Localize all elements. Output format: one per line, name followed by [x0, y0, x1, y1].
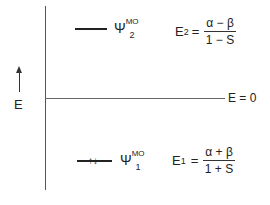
numerator: α + β [203, 145, 235, 161]
energy-subscript: 2 [184, 27, 189, 37]
psi-symbol: Ψ [120, 152, 132, 168]
psi-symbol: Ψ [114, 20, 126, 36]
denominator: 1 + S [205, 161, 233, 176]
zero-line-label: E = 0 [228, 91, 256, 105]
energy-subscript: 1 [181, 156, 186, 166]
psi-superscript: MO [132, 149, 145, 158]
equals-sign: = [192, 24, 200, 39]
equals-sign: = [191, 153, 199, 168]
energy-axis-label: E [14, 97, 23, 112]
e2-equation: E2 = α − β 1 − S [175, 16, 236, 47]
zero-energy-line [45, 98, 225, 99]
fraction: α − β 1 − S [204, 16, 236, 47]
psi-superscript: MO [126, 17, 139, 26]
denominator: 1 − S [206, 32, 234, 47]
psi1-label: ΨMO1 [120, 152, 150, 171]
energy-symbol: E [172, 153, 181, 168]
energy-symbol: E [175, 24, 184, 39]
psi-subscript: 1 [136, 162, 141, 172]
fraction: α + β 1 + S [203, 145, 235, 176]
psi2-label: ΨMO2 [114, 20, 144, 39]
psi2-energy-level [75, 28, 107, 30]
e1-equation: E1 = α + β 1 + S [172, 145, 235, 176]
psi-subscript: 2 [130, 30, 135, 40]
electron-pair-icon: ↑↓ [88, 156, 98, 166]
numerator: α − β [204, 16, 236, 32]
energy-arrow [19, 70, 20, 92]
